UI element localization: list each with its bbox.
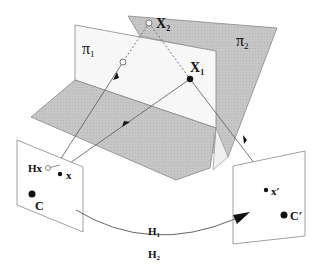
point-X1 (187, 76, 193, 82)
point-x-prime (264, 188, 268, 192)
label-Hx: Hx (28, 162, 43, 174)
two-view-homography-diagram: π1 π2 X2 X1 Hx x C x′ C′ H1 H2 (0, 0, 316, 271)
point-X2 (146, 20, 152, 26)
arrow-head-icon (243, 135, 247, 144)
point-pi1-intersection (120, 59, 126, 65)
point-x (58, 172, 62, 176)
point-C-prime (281, 212, 288, 219)
point-C (29, 191, 36, 198)
label-C: C (35, 199, 44, 213)
point-Hx (46, 166, 51, 171)
label-x-prime: x′ (271, 185, 280, 197)
label-C-prime: C′ (290, 209, 302, 223)
image-plane-right (233, 151, 305, 244)
label-X2: X2 (156, 16, 170, 33)
image-plane-left (17, 140, 83, 232)
label-H1: H1 (148, 225, 161, 239)
label-H2: H2 (148, 248, 161, 262)
label-x: x (66, 169, 72, 181)
homography-arrow (76, 210, 250, 235)
